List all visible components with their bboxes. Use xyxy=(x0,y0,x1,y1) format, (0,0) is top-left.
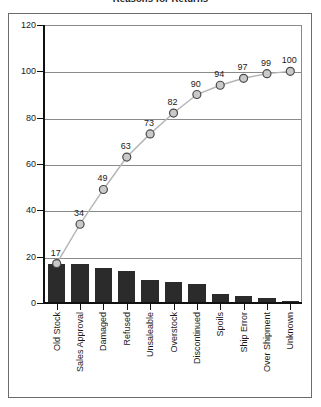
pareto-chart-screenshot: Reasons for Returns 020406080100120 1734… xyxy=(0,0,321,407)
bar xyxy=(95,268,112,303)
data-point-label: 97 xyxy=(238,62,248,72)
y-axis-tick-label: 40 xyxy=(2,205,36,215)
data-point-label: 63 xyxy=(121,141,131,151)
bar xyxy=(165,282,182,303)
data-point-label: 34 xyxy=(74,208,84,218)
y-axis-tick-label: 120 xyxy=(2,20,36,30)
y-axis-tick-label: 100 xyxy=(2,66,36,76)
x-axis-tick xyxy=(80,304,81,310)
x-axis-tick xyxy=(57,304,58,310)
x-axis-category-label: Spoils xyxy=(215,312,225,337)
y-axis-tick xyxy=(37,164,43,165)
data-point-label: 82 xyxy=(167,97,177,107)
y-axis-tick xyxy=(37,25,43,26)
x-axis-category-label: Unknown xyxy=(285,312,295,350)
y-axis-tick xyxy=(37,71,43,72)
x-axis-tick xyxy=(174,304,175,310)
y-axis-tick-label: 60 xyxy=(2,159,36,169)
x-axis-category-label: Old Stock xyxy=(52,312,62,351)
y-axis-tick-label: 80 xyxy=(2,113,36,123)
x-axis-tick xyxy=(220,304,221,310)
data-point-label: 99 xyxy=(261,58,271,68)
bar xyxy=(141,280,158,303)
x-axis-tick xyxy=(197,304,198,310)
data-point-label: 94 xyxy=(214,69,224,79)
data-point-label: 100 xyxy=(282,55,297,65)
x-axis-tick xyxy=(103,304,104,310)
y-axis-tick xyxy=(37,303,43,304)
x-axis-tick xyxy=(267,304,268,310)
y-axis-labels: 020406080100120 xyxy=(0,0,36,407)
bar xyxy=(71,264,88,303)
y-axis-tick xyxy=(37,118,43,119)
y-axis-tick xyxy=(37,210,43,211)
x-axis-category-label: Sales Approval xyxy=(75,312,85,372)
x-axis-category-label: Refused xyxy=(122,312,132,346)
y-axis-tick-label: 20 xyxy=(2,252,36,262)
data-point-label: 73 xyxy=(144,118,154,128)
x-axis-tick xyxy=(150,304,151,310)
x-axis-baseline xyxy=(43,302,302,304)
x-axis-category-label: Over Shipment xyxy=(262,312,272,372)
bar xyxy=(118,271,135,303)
x-axis-category-label: Unsaleable xyxy=(145,312,155,357)
y-axis-spine xyxy=(43,25,45,304)
x-axis-tick xyxy=(127,304,128,310)
x-axis-category-label: Discontinued xyxy=(192,312,202,364)
x-axis-tick xyxy=(244,304,245,310)
data-point-label: 49 xyxy=(97,173,107,183)
x-axis-category-label: Ship Error xyxy=(239,312,249,353)
y-axis-tick xyxy=(37,257,43,258)
chart-title: Reasons for Returns xyxy=(0,0,321,4)
x-axis-category-label: Overstock xyxy=(169,312,179,353)
data-point-label: 90 xyxy=(191,79,201,89)
bar xyxy=(188,284,205,303)
x-axis-tick xyxy=(290,304,291,310)
x-axis-category-labels: Old StockSales ApprovalDamagedRefusedUns… xyxy=(45,312,302,402)
bar xyxy=(48,264,65,303)
y-axis-tick-label: 0 xyxy=(2,298,36,308)
data-point-label: 17 xyxy=(51,248,61,258)
x-axis-category-label: Damaged xyxy=(98,312,108,351)
